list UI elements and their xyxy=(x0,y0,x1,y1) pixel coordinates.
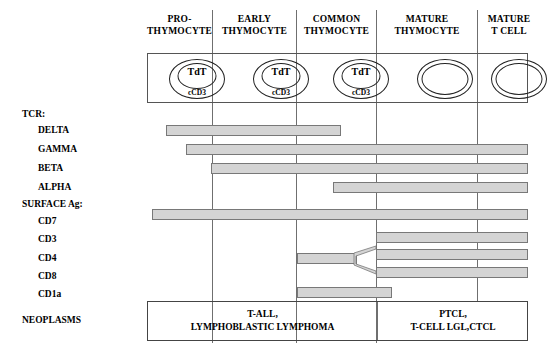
neoplasm-line2: T-CELL LGL,CTCL xyxy=(378,321,528,334)
stage-header-line2: THYMOCYTE xyxy=(147,26,212,38)
row-label-cd3: CD3 xyxy=(38,234,56,244)
neoplasm-line1: T-ALL, xyxy=(148,308,377,321)
tdt-label: TdT xyxy=(250,66,312,77)
row-label-gamma: GAMMA xyxy=(38,144,77,154)
expression-bar-beta xyxy=(211,163,528,174)
cell-diagram-row: TdT cCD3 TdT cCD3 TdT cCD3 xyxy=(147,53,528,103)
ccd3-label: cCD3 xyxy=(250,88,312,97)
row-label-delta: DELTA xyxy=(38,125,69,135)
expression-bar-cd7 xyxy=(152,209,528,220)
stage-header-line2: THYMOCYTE xyxy=(213,26,296,38)
cell-common-thymocyte: TdT cCD3 xyxy=(330,58,392,100)
neoplasms-box: T-ALL, LYMPHOBLASTIC LYMPHOMA PTCL, T-CE… xyxy=(147,301,528,341)
cell-nucleus-icon xyxy=(496,63,543,95)
section-label-tcr: TCR: xyxy=(22,109,45,119)
expression-bar-cd4-cd8-double-positive-stem xyxy=(297,253,357,264)
neoplasm-label-peripheral: PTCL, T-CELL LGL,CTCL xyxy=(378,308,528,334)
neoplasm-label-lymphoblastic: T-ALL, LYMPHOBLASTIC LYMPHOMA xyxy=(148,308,377,334)
expression-bar-cd1a xyxy=(297,287,392,298)
tdt-label: TdT xyxy=(330,66,392,77)
cell-mature-t-cell xyxy=(488,58,550,100)
cell-mature-thymocyte xyxy=(414,58,476,100)
expression-bar-delta xyxy=(166,125,341,136)
stage-header-line1: MATURE xyxy=(478,14,540,26)
expression-bar-cd3 xyxy=(376,232,528,243)
stage-header-early-thymocyte: EARLY THYMOCYTE xyxy=(213,14,296,37)
expression-bar-cd4 xyxy=(376,249,528,260)
row-label-cd7: CD7 xyxy=(38,216,56,226)
section-label-surface-ag: SURFACE Ag: xyxy=(22,199,83,209)
row-label-cd4: CD4 xyxy=(38,253,56,263)
t-cell-maturation-diagram: PRO- THYMOCYTE EARLY THYMOCYTE COMMON TH… xyxy=(0,0,555,347)
stage-header-common-thymocyte: COMMON THYMOCYTE xyxy=(297,14,376,37)
stage-header-line1: EARLY xyxy=(213,14,296,26)
section-label-neoplasms: NEOPLASMS xyxy=(22,315,81,325)
row-label-beta: BETA xyxy=(38,163,63,173)
stage-header-line1: PRO- xyxy=(147,14,212,26)
cell-early-thymocyte: TdT cCD3 xyxy=(250,58,312,100)
cell-pro-thymocyte: TdT cCD3 xyxy=(166,58,228,100)
row-label-cd8: CD8 xyxy=(38,271,56,281)
ccd3-label: cCD3 xyxy=(330,88,392,97)
expression-bar-gamma xyxy=(186,144,528,155)
ccd3-label: cCD3 xyxy=(166,88,228,97)
stage-header-line2: THYMOCYTE xyxy=(297,26,376,38)
cell-nucleus-icon xyxy=(422,63,469,95)
expression-bar-cd8 xyxy=(376,267,528,278)
stage-header-line2: THYMOCYTE xyxy=(377,26,477,38)
stage-header-mature-t-cell: MATURE T CELL xyxy=(478,14,540,37)
stage-header-line1: COMMON xyxy=(297,14,376,26)
row-label-alpha: ALPHA xyxy=(38,182,71,192)
cd4-cd8-fork-wedge xyxy=(354,246,380,282)
stage-header-line1: MATURE xyxy=(377,14,477,26)
expression-bar-alpha xyxy=(333,182,528,193)
tdt-label: TdT xyxy=(166,66,228,77)
neoplasm-line1: PTCL, xyxy=(378,308,528,321)
stage-header-line2: T CELL xyxy=(478,26,540,38)
stage-header-mature-thymocyte: MATURE THYMOCYTE xyxy=(377,14,477,37)
stage-header-pro-thymocyte: PRO- THYMOCYTE xyxy=(147,14,212,37)
row-label-cd1a: CD1a xyxy=(38,289,61,299)
neoplasm-line2: LYMPHOBLASTIC LYMPHOMA xyxy=(148,321,377,334)
